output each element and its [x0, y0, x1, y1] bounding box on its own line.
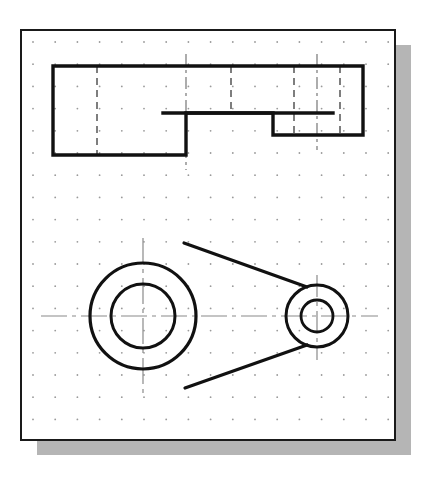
grid-dot: [232, 241, 234, 243]
grid-dot: [188, 197, 190, 199]
grid-dot: [165, 108, 167, 110]
grid-dot: [321, 219, 323, 221]
grid-dot: [387, 419, 389, 421]
grid-dot: [254, 352, 256, 354]
grid-dot: [99, 41, 101, 43]
grid-dot: [254, 308, 256, 310]
grid-dot: [32, 152, 34, 154]
grid-dot: [276, 174, 278, 176]
grid-dot: [365, 86, 367, 88]
grid-dot: [321, 263, 323, 265]
grid-dot: [32, 130, 34, 132]
grid-dot: [99, 130, 101, 132]
grid-dot: [321, 41, 323, 43]
grid-dot: [165, 263, 167, 265]
grid-dot: [99, 241, 101, 243]
grid-dot: [165, 396, 167, 398]
grid-dot: [343, 263, 345, 265]
grid-dot: [321, 108, 323, 110]
grid-dot: [121, 219, 123, 221]
grid-dot: [32, 352, 34, 354]
grid-dot: [188, 308, 190, 310]
grid-dot: [299, 174, 301, 176]
grid-dot: [299, 108, 301, 110]
grid-dot: [188, 152, 190, 154]
grid-dot: [321, 86, 323, 88]
grid-dot: [232, 130, 234, 132]
grid-dot: [99, 419, 101, 421]
grid-dot: [365, 263, 367, 265]
grid-dot: [299, 130, 301, 132]
grid-dot: [343, 285, 345, 287]
grid-dot: [77, 197, 79, 199]
grid-dot: [254, 285, 256, 287]
grid-dot: [32, 374, 34, 376]
grid-dot: [299, 41, 301, 43]
grid-dot: [232, 174, 234, 176]
grid-dot: [321, 130, 323, 132]
grid-dot: [210, 219, 212, 221]
grid-dot: [165, 374, 167, 376]
grid-dot: [343, 308, 345, 310]
grid-dot: [276, 374, 278, 376]
grid-dot: [188, 241, 190, 243]
grid-dot: [387, 330, 389, 332]
grid-dot: [387, 86, 389, 88]
grid-dot: [77, 86, 79, 88]
grid-dot: [276, 130, 278, 132]
grid-dot: [32, 174, 34, 176]
grid-dot: [165, 330, 167, 332]
grid-dot: [210, 197, 212, 199]
grid-dot: [276, 152, 278, 154]
grid-dot: [54, 263, 56, 265]
grid-dot: [188, 41, 190, 43]
grid-dot: [165, 174, 167, 176]
grid-dot: [254, 86, 256, 88]
grid-dot: [32, 285, 34, 287]
grid-dot: [343, 41, 345, 43]
grid-dot: [321, 241, 323, 243]
grid-dot: [232, 263, 234, 265]
grid-dot: [210, 174, 212, 176]
grid-dot: [54, 308, 56, 310]
grid-dot: [276, 219, 278, 221]
grid-dot: [99, 174, 101, 176]
grid-dot: [188, 219, 190, 221]
grid-dot: [188, 174, 190, 176]
grid-dot: [77, 241, 79, 243]
grid-dot: [165, 419, 167, 421]
grid-dot: [232, 86, 234, 88]
grid-dot: [54, 419, 56, 421]
grid-dot: [232, 41, 234, 43]
grid-dot: [143, 419, 145, 421]
grid-dot: [387, 197, 389, 199]
grid-dot: [121, 419, 123, 421]
grid-dot: [299, 352, 301, 354]
grid-dot: [77, 174, 79, 176]
grid-dot: [387, 174, 389, 176]
grid-dot: [276, 419, 278, 421]
grid-dot: [32, 63, 34, 65]
grid-dot: [321, 174, 323, 176]
grid-dot: [121, 396, 123, 398]
grid-dot: [188, 374, 190, 376]
grid-dot: [32, 263, 34, 265]
grid-dot: [365, 63, 367, 65]
grid-dot: [276, 263, 278, 265]
grid-dot: [232, 152, 234, 154]
grid-dot: [210, 41, 212, 43]
grid-dot: [276, 108, 278, 110]
grid-dot: [121, 174, 123, 176]
grid-dot: [77, 308, 79, 310]
grid-dot: [121, 352, 123, 354]
grid-dot: [276, 41, 278, 43]
grid-dot: [121, 197, 123, 199]
grid-dot: [276, 241, 278, 243]
grid-dot: [54, 330, 56, 332]
grid-dot: [165, 219, 167, 221]
grid-dot: [99, 219, 101, 221]
grid-dot: [165, 285, 167, 287]
grid-dot: [210, 241, 212, 243]
grid-dot: [188, 352, 190, 354]
grid-dot: [143, 108, 145, 110]
